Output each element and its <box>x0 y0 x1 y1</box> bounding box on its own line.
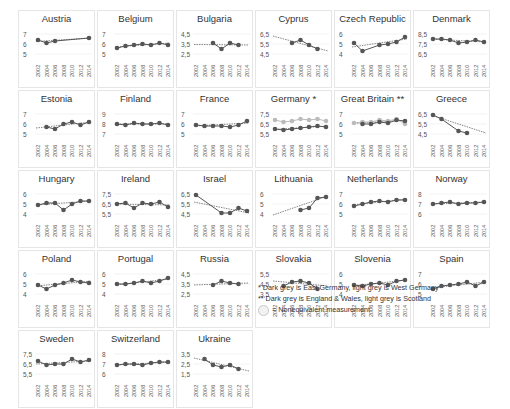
chart-panel-germany: Germany *5,56,57,52002200420062008201020… <box>255 90 332 168</box>
line-plot: 5672002200420062008201020122014 <box>335 91 412 169</box>
svg-text:6: 6 <box>339 121 343 128</box>
svg-text:6: 6 <box>339 31 343 38</box>
svg-text:6: 6 <box>181 121 185 128</box>
svg-text:2008: 2008 <box>61 225 67 237</box>
svg-text:8,5: 8,5 <box>418 31 427 38</box>
legend-germany-note: * Dark grey is East Germany, light grey … <box>258 282 439 293</box>
svg-text:2008: 2008 <box>140 145 146 157</box>
svg-text:7,5: 7,5 <box>260 111 269 118</box>
svg-text:2006: 2006 <box>210 385 216 397</box>
svg-text:2010: 2010 <box>464 65 470 77</box>
svg-text:2004: 2004 <box>202 65 208 77</box>
svg-text:2014: 2014 <box>323 65 329 77</box>
chart-panel-portugal: Portugal4562002200420062008201020122014 <box>97 250 174 328</box>
svg-text:2008: 2008 <box>219 225 225 237</box>
line-plot: 2,53,54,52002200420062008201020122014 <box>177 11 254 89</box>
svg-text:2008: 2008 <box>456 305 462 317</box>
svg-text:2006: 2006 <box>52 65 58 77</box>
line-plot: 4,55,56,52002200420062008201020122014 <box>414 91 491 169</box>
svg-text:4: 4 <box>339 51 343 58</box>
svg-text:5: 5 <box>102 281 106 288</box>
svg-text:2008: 2008 <box>140 385 146 397</box>
svg-text:2008: 2008 <box>298 65 304 77</box>
svg-text:4: 4 <box>23 291 27 298</box>
svg-text:5,5: 5,5 <box>260 41 269 48</box>
svg-text:2006: 2006 <box>52 225 58 237</box>
svg-text:2002: 2002 <box>193 145 199 157</box>
svg-text:6: 6 <box>23 121 27 128</box>
svg-text:5: 5 <box>23 131 27 138</box>
svg-text:5,5: 5,5 <box>102 211 111 218</box>
svg-text:2008: 2008 <box>219 65 225 77</box>
svg-text:2014: 2014 <box>244 385 250 397</box>
svg-text:2004: 2004 <box>360 65 366 77</box>
svg-text:2010: 2010 <box>464 305 470 317</box>
legend-nonequivalent-label: = Nonequivalent measurement <box>272 305 370 314</box>
svg-text:2008: 2008 <box>377 65 383 77</box>
svg-text:2004: 2004 <box>44 385 50 397</box>
svg-text:8: 8 <box>102 351 106 358</box>
svg-text:2012: 2012 <box>315 145 321 157</box>
svg-text:2012: 2012 <box>236 65 242 77</box>
svg-text:2002: 2002 <box>430 65 436 77</box>
svg-text:2004: 2004 <box>360 145 366 157</box>
svg-text:5,5: 5,5 <box>418 121 427 128</box>
svg-text:5,5: 5,5 <box>260 131 269 138</box>
svg-text:2010: 2010 <box>227 385 233 397</box>
svg-text:2014: 2014 <box>244 305 250 317</box>
svg-text:2014: 2014 <box>244 145 250 157</box>
svg-text:2008: 2008 <box>61 65 67 77</box>
svg-text:2,5: 2,5 <box>181 361 190 368</box>
svg-text:2010: 2010 <box>148 305 154 317</box>
svg-text:2008: 2008 <box>298 145 304 157</box>
svg-text:7: 7 <box>102 361 106 368</box>
svg-text:5: 5 <box>23 201 27 208</box>
svg-text:5,5: 5,5 <box>260 271 269 278</box>
line-plot: 5,56,57,52002200420062008201020122014 <box>98 171 175 249</box>
svg-text:2014: 2014 <box>244 225 250 237</box>
svg-text:2002: 2002 <box>272 65 278 77</box>
svg-text:2008: 2008 <box>219 305 225 317</box>
svg-text:7: 7 <box>102 31 106 38</box>
svg-text:2002: 2002 <box>35 65 41 77</box>
svg-text:2006: 2006 <box>447 145 453 157</box>
svg-text:2008: 2008 <box>219 385 225 397</box>
svg-text:2008: 2008 <box>298 225 304 237</box>
svg-text:4,5: 4,5 <box>418 131 427 138</box>
svg-text:2004: 2004 <box>439 145 445 157</box>
svg-text:2012: 2012 <box>157 145 163 157</box>
svg-text:2006: 2006 <box>131 225 137 237</box>
svg-text:2006: 2006 <box>447 305 453 317</box>
svg-text:2004: 2004 <box>123 305 129 317</box>
chart-panel-great-britain: Great Britain **567200220042006200820102… <box>334 90 411 168</box>
svg-text:2006: 2006 <box>210 145 216 157</box>
svg-text:2014: 2014 <box>86 65 92 77</box>
svg-text:2012: 2012 <box>315 225 321 237</box>
svg-text:2012: 2012 <box>78 65 84 77</box>
svg-text:5,5: 5,5 <box>23 371 32 378</box>
svg-text:2010: 2010 <box>385 145 391 157</box>
svg-text:2010: 2010 <box>148 145 154 157</box>
svg-text:2014: 2014 <box>165 145 171 157</box>
svg-text:2008: 2008 <box>140 65 146 77</box>
svg-text:2014: 2014 <box>86 305 92 317</box>
svg-text:7,5: 7,5 <box>23 351 32 358</box>
chart-panel-ukraine: Ukraine1,52,53,5200220042006200820102012… <box>176 330 253 408</box>
svg-text:2006: 2006 <box>447 225 453 237</box>
svg-text:2014: 2014 <box>165 385 171 397</box>
svg-text:7: 7 <box>102 131 106 138</box>
svg-text:2008: 2008 <box>61 145 67 157</box>
svg-text:2004: 2004 <box>44 65 50 77</box>
line-plot: 5672002200420062008201020122014 <box>19 11 96 89</box>
svg-text:2014: 2014 <box>165 225 171 237</box>
svg-text:2010: 2010 <box>385 65 391 77</box>
chart-panel-estonia: Estonia5672002200420062008201020122014 <box>18 90 95 168</box>
nonequivalent-marker-icon <box>258 305 269 316</box>
svg-text:2004: 2004 <box>44 145 50 157</box>
svg-text:2004: 2004 <box>202 305 208 317</box>
svg-text:6,5: 6,5 <box>260 121 269 128</box>
chart-panel-france: France5672002200420062008201020122014 <box>176 90 253 168</box>
svg-text:2004: 2004 <box>360 225 366 237</box>
svg-text:2002: 2002 <box>35 225 41 237</box>
chart-panel-bulgaria: Bulgaria2,53,54,520022004200620082010201… <box>176 10 253 88</box>
